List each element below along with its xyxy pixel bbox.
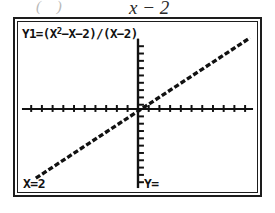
- trace-readout: X=2 Y=: [18, 175, 257, 191]
- graph-plot-area[interactable]: [18, 22, 257, 192]
- textbook-fragment: ( ) x − 2: [0, 0, 275, 18]
- calculator-frame: Y1=(X2−X−2)/(X−2): [13, 17, 262, 197]
- textbook-ghost-text: ( ): [36, 0, 68, 15]
- page-root: ( ) x − 2 Y1=(X2−X−2)/(X−2): [0, 0, 275, 213]
- trace-x-value: X=2: [23, 176, 45, 191]
- calculator-screen: Y1=(X2−X−2)/(X−2): [17, 21, 258, 193]
- trace-y-value: Y=: [144, 176, 159, 191]
- graph-svg: [18, 22, 257, 192]
